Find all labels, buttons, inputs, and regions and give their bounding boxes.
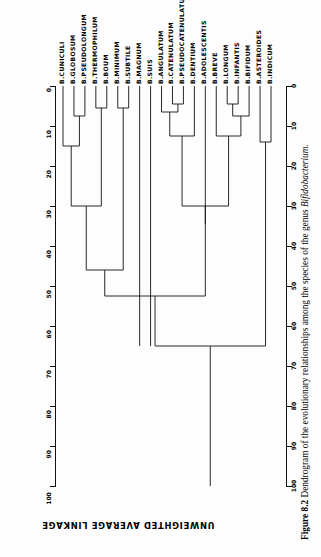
left-axis: 0102030405060708090100 xyxy=(47,86,56,486)
axis-tick-label: 70 xyxy=(291,362,297,370)
axis-tick-label: 100 xyxy=(291,480,297,493)
leaf-label: B.BREVE xyxy=(212,52,218,84)
leaf-label: B.PSEUDOLONGUM xyxy=(81,14,87,84)
figure-caption: Figure 8.2 Dendrogram of the evolutionar… xyxy=(300,20,310,540)
leaf-label: B.ASTEROIDES xyxy=(256,30,262,84)
axis-tick-label: 90 xyxy=(291,442,297,450)
axis-tick-label: 80 xyxy=(46,410,52,418)
leaf-label: B.BOUM xyxy=(103,54,109,84)
axis-title: UNWEIGHTED AVERAGE LINKAGE xyxy=(28,520,228,530)
axis-tick-label: 0 xyxy=(291,84,297,88)
dendrogram-branches xyxy=(63,86,271,486)
axis-tick-label: 60 xyxy=(291,322,297,330)
leaf-label: B.ANGULATUM xyxy=(157,30,163,84)
leaf-label: B.PSEUDOCATENULATUM xyxy=(179,0,185,84)
leaf-label: B.MINIMUM xyxy=(114,41,120,84)
leaf-label: B.ADOLESCENTIS xyxy=(201,20,207,84)
axis-tick-label: 100 xyxy=(46,492,52,505)
leaf-label: B.THERMOPHILUM xyxy=(92,16,98,84)
axis-tick-label: 50 xyxy=(291,282,297,290)
caption-figure-number: Figure 8.2 xyxy=(300,500,310,540)
leaf-label: B.DENTIUM xyxy=(190,42,196,84)
right-axis: 0102030405060708090100 xyxy=(286,86,295,486)
leaf-label: B.SUIS xyxy=(146,59,152,84)
axis-tick-label: 30 xyxy=(291,202,297,210)
axis-tick-label: 60 xyxy=(46,330,52,338)
axis-tick-label: 10 xyxy=(46,130,52,138)
axis-tick-label: 40 xyxy=(46,250,52,258)
axis-tick-label: 70 xyxy=(46,370,52,378)
axis-tick-label: 20 xyxy=(291,162,297,170)
leaf-label: B.BIFIDUM xyxy=(245,44,251,84)
figure-page: B.CUNICULIB.GLOBOSUMB.PSEUDOLONGUMB.THER… xyxy=(0,0,321,557)
axis-tick-label: 50 xyxy=(46,290,52,298)
axis-tick-label: 10 xyxy=(291,122,297,130)
axis-tick-label: 80 xyxy=(291,402,297,410)
axis-tick-label: 90 xyxy=(46,450,52,458)
axis-tick-label: 40 xyxy=(291,242,297,250)
axis-tick-label: 0 xyxy=(46,88,52,92)
leaf-label: B.LONGUM xyxy=(223,44,229,84)
leaf-label-row: B.CUNICULIB.GLOBOSUMB.PSEUDOLONGUMB.THER… xyxy=(56,0,278,84)
caption-genus-name: Bifidobacterium. xyxy=(300,144,310,207)
leaf-label: B.MAGNUM xyxy=(136,42,142,84)
leaf-label: B.CATENULATUM xyxy=(168,22,174,84)
axis-tick-label: 30 xyxy=(46,210,52,218)
dendrogram-svg xyxy=(56,86,278,486)
leaf-label: B.INDICUM xyxy=(267,44,273,84)
leaf-label: B.CUNICULI xyxy=(59,41,65,84)
axis-tick-label: 20 xyxy=(46,170,52,178)
axis-tick xyxy=(50,486,56,487)
caption-body: Dendrogram of the evolutionary relations… xyxy=(300,209,310,497)
leaf-label: B.INFANTIS xyxy=(234,42,240,84)
leaf-label: B.SUBTILE xyxy=(125,45,131,84)
dendrogram-plot xyxy=(56,86,278,486)
leaf-label: B.GLOBOSUM xyxy=(70,34,76,84)
